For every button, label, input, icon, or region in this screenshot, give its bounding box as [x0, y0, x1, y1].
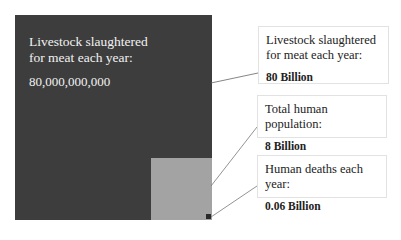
population-square: [151, 158, 212, 220]
connector-livestock: [211, 73, 258, 83]
callout-livestock-value: 80 Billion: [266, 71, 382, 83]
livestock-square-value: 80,000,000,000: [29, 74, 110, 90]
callout-population-label: Total human population:: [265, 102, 380, 132]
callout-population-value: 8 Billion: [265, 140, 380, 152]
livestock-square-label: Livestock slaughtered for meat each year…: [29, 34, 148, 66]
callout-deaths-value: 0.06 Billion: [265, 200, 380, 212]
callout-livestock: Livestock slaughtered for meat each year…: [258, 26, 389, 84]
connector-deaths: [211, 186, 257, 217]
livestock-label-line2: for meat each year:: [29, 50, 148, 66]
callout-deaths-label: Human deaths each year:: [265, 162, 380, 192]
livestock-label-line1: Livestock slaughtered: [29, 34, 148, 50]
callout-deaths: Human deaths each year: 0.06 Billion: [257, 155, 387, 198]
deaths-square: [206, 214, 211, 219]
connector-population: [211, 127, 257, 186]
callout-livestock-label: Livestock slaughtered for meat each year…: [266, 33, 382, 63]
callout-population: Total human population: 8 Billion: [257, 95, 387, 138]
